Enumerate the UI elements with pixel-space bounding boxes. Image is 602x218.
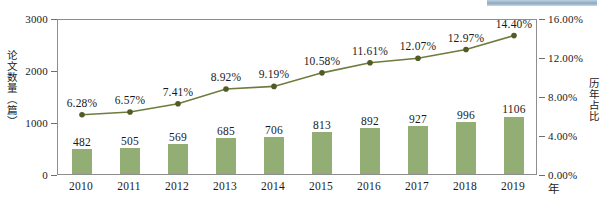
left-axis: 论文数量（篇） 0100020003000: [0, 0, 57, 218]
bar-value-label: 569: [169, 131, 187, 143]
x-axis-tick-label: 2011: [117, 180, 140, 192]
line-value-label: 6.28%: [67, 97, 98, 109]
line-value-label: 6.57%: [115, 94, 146, 106]
right-axis-tick: 12.00%: [548, 52, 583, 64]
right-axis-tickmark: [539, 175, 545, 176]
line-marker: [511, 33, 517, 39]
left-axis-tick: 2000: [25, 65, 48, 77]
chart-figure: 论文数量（篇） 0100020003000 0.00%4.00%8.00%12.…: [0, 0, 602, 218]
right-axis-tick: 16.00%: [548, 13, 583, 25]
right-axis-tick: 8.00%: [548, 91, 577, 103]
x-axis-tick-label: 2010: [69, 180, 93, 192]
line-marker: [367, 60, 373, 66]
left-axis-title: 论文数量（篇）: [1, 50, 17, 127]
line-value-label: 12.07%: [400, 40, 437, 52]
x-axis-tick-label: 2018: [453, 180, 477, 192]
x-axis-tick-label: 2014: [261, 180, 285, 192]
left-axis-tick: 1000: [25, 117, 48, 129]
line-marker: [463, 47, 469, 53]
bar-value-label: 927: [409, 113, 427, 125]
bar-value-label: 813: [313, 119, 331, 131]
x-axis-tick-label: 2012: [165, 180, 189, 192]
line-value-label: 14.40%: [496, 18, 533, 30]
bar-value-label: 892: [361, 115, 379, 127]
bar-value-label: 685: [217, 125, 235, 137]
bar-value-label: 996: [457, 109, 475, 121]
right-axis-tickmark: [539, 97, 545, 98]
line-marker: [223, 86, 229, 92]
line-value-label: 8.92%: [211, 71, 242, 83]
line-value-label: 7.41%: [163, 86, 194, 98]
x-axis-tick-label: 2016: [357, 180, 381, 192]
line-value-label: 12.97%: [448, 32, 485, 44]
x-axis-title: 年: [548, 180, 559, 196]
right-axis-tickmark: [539, 19, 545, 20]
right-axis-tickmark: [539, 58, 545, 59]
line-marker: [175, 101, 181, 107]
x-axis-tick-label: 2015: [309, 180, 333, 192]
line-marker: [415, 56, 421, 62]
line-marker: [79, 112, 85, 118]
plot-area: 4825055696857068138929279961106 6.28%6.5…: [57, 19, 537, 175]
line-path: [82, 36, 514, 115]
right-axis-tickmark: [539, 136, 545, 137]
x-axis-tick-label: 2019: [501, 180, 525, 192]
right-axis-title: 历年占比: [583, 78, 599, 122]
line-value-label: 9.19%: [259, 68, 290, 80]
line-value-label: 10.58%: [304, 55, 341, 67]
x-axis-tick-label: 2013: [213, 180, 237, 192]
line-marker: [127, 109, 133, 115]
bar-value-label: 706: [265, 124, 283, 136]
x-axis-labels: 2010201120122013201420152016201720182019: [57, 180, 537, 200]
left-axis-tick: 0: [42, 169, 48, 181]
left-axis-tickmark: [51, 175, 57, 176]
line-marker: [319, 70, 325, 76]
line-value-label: 11.61%: [352, 45, 388, 57]
line-marker: [271, 84, 277, 90]
bar-value-label: 482: [73, 136, 91, 148]
left-axis-tick: 3000: [25, 13, 48, 25]
x-axis-tick-label: 2017: [405, 180, 429, 192]
bar-value-label: 1106: [502, 103, 525, 115]
right-axis-tick: 4.00%: [548, 130, 577, 142]
bar-value-label: 505: [121, 135, 139, 147]
